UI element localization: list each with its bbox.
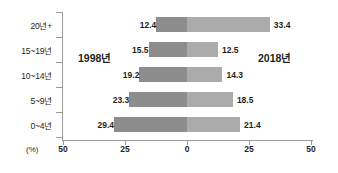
value-label-1998: 23.3 xyxy=(69,92,133,107)
x-axis-tick-label: 25 xyxy=(234,144,264,154)
y-axis-tick xyxy=(56,137,62,138)
value-label-2018: 18.5 xyxy=(233,92,297,107)
bar-1998 xyxy=(149,42,187,57)
value-label-2018: 33.4 xyxy=(270,17,334,32)
x-axis-tick-label: 0 xyxy=(172,144,202,154)
value-label-1998: 29.4 xyxy=(54,117,118,132)
bar-1998 xyxy=(156,17,187,32)
value-label-1998: 19.2 xyxy=(79,67,143,82)
series-label-2018: 2018년 xyxy=(258,50,291,65)
x-axis-tick-label: 50 xyxy=(48,144,78,154)
y-axis-tick xyxy=(56,112,62,113)
y-axis-tick xyxy=(56,12,62,13)
bar-2018 xyxy=(187,67,222,82)
bar-2018 xyxy=(187,92,233,107)
category-label: 0~4년 xyxy=(0,112,52,137)
y-axis-tick xyxy=(56,62,62,63)
chart-row: 0~4년29.421.4 xyxy=(0,112,338,137)
bar-1998 xyxy=(139,67,187,82)
chart-row: 10~14년19.214.3 xyxy=(0,62,338,87)
x-axis-unit-label: (%) xyxy=(26,145,38,154)
bar-1998 xyxy=(129,92,187,107)
y-axis-tick xyxy=(56,37,62,38)
x-axis-tick-label: 25 xyxy=(110,144,140,154)
value-label-1998: 12.4 xyxy=(96,17,160,32)
category-label: 20년+ xyxy=(0,12,52,37)
chart-row: 20년+12.433.4 xyxy=(0,12,338,37)
category-label: 15~19년 xyxy=(0,37,52,62)
bar-2018 xyxy=(187,42,218,57)
bar-2018 xyxy=(187,17,270,32)
x-axis-tick-label: 50 xyxy=(296,144,326,154)
category-label: 5~9년 xyxy=(0,87,52,112)
bar-2018 xyxy=(187,117,240,132)
chart-row: 5~9년23.318.5 xyxy=(0,87,338,112)
value-label-2018: 21.4 xyxy=(240,117,304,132)
value-label-2018: 14.3 xyxy=(222,67,286,82)
series-label-1998: 1998년 xyxy=(78,50,111,65)
y-axis-tick xyxy=(56,87,62,88)
bar-1998 xyxy=(114,117,187,132)
diverging-bar-chart: 20년+12.433.415~19년15.512.510~14년19.214.3… xyxy=(0,0,338,173)
category-label: 10~14년 xyxy=(0,62,52,87)
